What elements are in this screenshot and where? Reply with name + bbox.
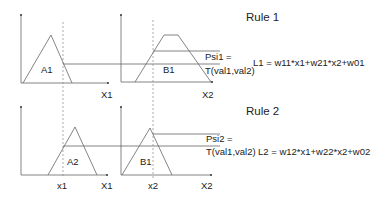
rule1-x1-axis-label: X1 <box>101 89 113 100</box>
rule2-tnorm-label: T(val1,val2) <box>206 146 256 157</box>
rule2-a2-membership <box>48 127 97 175</box>
rule2-b1-label: B1 <box>140 156 152 167</box>
rule2-x2-axes <box>120 106 212 176</box>
rule1-a1-label: A1 <box>41 64 53 75</box>
rule1-output-formula: L1 = w11*x1+w21*x2+w01 <box>253 57 365 68</box>
rule2-output-formula: L2 = w12*x1+w22*x2+w02 <box>258 146 370 157</box>
rule2-x2-axis-label: X2 <box>201 180 213 191</box>
rule2-b1-membership <box>122 128 172 175</box>
rule1-title: Rule 1 <box>246 11 279 23</box>
rule1-psi-label: Psi1 = <box>205 51 232 62</box>
rule2-x1-axis-label: X1 <box>101 180 113 191</box>
rule-2: A2 x1 X1 B1 x2 X2 Rule 2 Psi2 = T(val1,v… <box>20 105 370 191</box>
rule1-b1-label: B1 <box>163 64 175 75</box>
rule2-a2-label: A2 <box>67 156 79 167</box>
rule2-psi-label: Psi2 = <box>206 133 233 144</box>
rule2-title: Rule 2 <box>246 105 279 117</box>
rule-1: A1 X1 B1 X2 Rule 1 Psi1 = T(val1,val2) L… <box>20 11 365 100</box>
fuzzy-rules-diagram: A1 X1 B1 X2 Rule 1 Psi1 = T(val1,val2) L… <box>0 0 380 203</box>
rule1-tnorm-label: T(val1,val2) <box>205 65 255 76</box>
rule1-x2-axis-label: X2 <box>202 89 214 100</box>
rule2-x2-value-label: x2 <box>148 180 158 191</box>
rule2-x1-value-label: x1 <box>57 180 67 191</box>
rule2-x1-axes <box>20 106 108 176</box>
rule1-a1-membership <box>23 35 72 83</box>
rule1-x1-axes <box>20 14 109 84</box>
